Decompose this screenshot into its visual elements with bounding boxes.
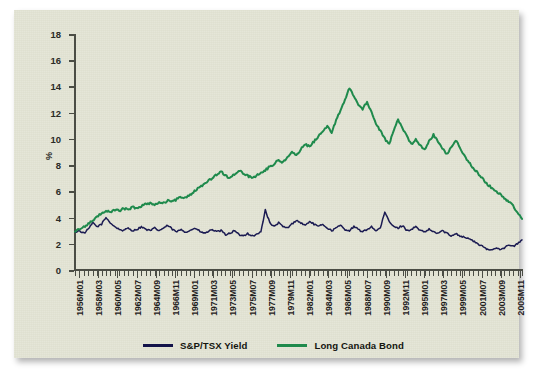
x-axis-major-tick xyxy=(194,271,195,278)
x-axis-minor-tick xyxy=(124,271,125,276)
legend-label: Long Canada Bond xyxy=(314,340,404,351)
x-axis-minor-tick xyxy=(509,271,510,276)
x-axis-minor-tick xyxy=(102,271,103,276)
x-axis-minor-tick xyxy=(221,271,222,276)
x-axis-tick-label: 1982M01 xyxy=(306,280,315,316)
x-axis-minor-tick xyxy=(119,271,120,276)
y-axis-labels: 024681012141618 xyxy=(14,34,70,270)
x-axis-major-tick xyxy=(405,271,406,278)
x-axis-minor-tick xyxy=(234,271,235,276)
x-axis-tick-label: 1997M03 xyxy=(440,280,449,316)
x-axis-major-tick xyxy=(79,271,80,278)
x-axis-minor-tick xyxy=(416,271,417,276)
x-axis-minor-tick xyxy=(265,271,266,276)
x-axis-minor-tick xyxy=(186,271,187,276)
x-axis-minor-tick xyxy=(469,271,470,276)
x-axis-tick-label: 1995M01 xyxy=(421,280,430,316)
series-lines xyxy=(75,34,522,270)
x-axis-minor-tick xyxy=(168,271,169,276)
x-axis-minor-tick xyxy=(438,271,439,276)
x-axis-minor-tick xyxy=(349,271,350,276)
x-axis-major-tick xyxy=(271,271,272,278)
x-axis-minor-tick xyxy=(177,271,178,276)
y-axis-tick xyxy=(69,139,74,141)
y-axis-tick xyxy=(69,34,74,36)
x-axis-minor-tick xyxy=(380,271,381,276)
y-axis-tick-label: 4 xyxy=(56,212,61,223)
x-axis-tick-label: 1960M05 xyxy=(114,280,123,316)
x-axis-minor-tick xyxy=(372,271,373,276)
x-axis-tick-label: 1986M05 xyxy=(344,280,353,316)
x-axis-minor-tick xyxy=(513,271,514,276)
x-axis-minor-tick xyxy=(283,271,284,276)
x-axis-minor-tick xyxy=(164,271,165,276)
x-axis-major-tick xyxy=(501,271,502,278)
x-axis-major-tick xyxy=(309,271,310,278)
x-axis-minor-tick xyxy=(314,271,315,276)
x-axis-tick-label: 1958M03 xyxy=(95,280,104,316)
x-axis-tick-label: 2005M11 xyxy=(517,280,526,315)
x-axis-minor-tick xyxy=(318,271,319,276)
x-axis-minor-tick xyxy=(491,271,492,276)
x-axis-major-tick xyxy=(386,271,387,278)
x-axis-tick-label: 2003M09 xyxy=(498,280,507,316)
x-axis-minor-tick xyxy=(407,271,408,276)
x-axis-major-tick xyxy=(482,271,483,278)
legend-item[interactable]: Long Canada Bond xyxy=(277,340,404,351)
x-axis-minor-tick xyxy=(478,271,479,276)
x-axis-minor-tick xyxy=(363,271,364,276)
x-axis-major-tick xyxy=(213,271,214,278)
x-axis-major-tick xyxy=(137,271,138,278)
x-axis-major-tick xyxy=(232,271,233,278)
x-axis-tick-label: 1969M01 xyxy=(191,280,200,316)
y-axis-tick-label: 18 xyxy=(50,29,61,40)
x-axis-labels: 1956M011958M031960M051962M071964M091966M… xyxy=(75,280,522,336)
x-axis-major-tick xyxy=(520,271,521,278)
x-axis-minor-tick xyxy=(429,271,430,276)
legend-swatch-icon xyxy=(277,344,307,346)
x-axis-major-tick xyxy=(424,271,425,278)
x-axis-minor-tick xyxy=(433,271,434,276)
x-axis-minor-tick xyxy=(487,271,488,276)
x-axis-minor-tick xyxy=(504,271,505,276)
x-axis-major-tick xyxy=(156,271,157,278)
x-axis-minor-tick xyxy=(451,271,452,276)
x-axis-minor-tick xyxy=(287,271,288,276)
x-axis-tick-label: 1971M03 xyxy=(210,280,219,316)
x-axis-tick-label: 1975M07 xyxy=(249,280,258,316)
x-axis-minor-tick xyxy=(292,271,293,276)
y-axis-tick-label: 16 xyxy=(50,55,61,66)
x-axis-minor-tick xyxy=(420,271,421,276)
x-axis-minor-tick xyxy=(411,271,412,276)
x-axis-tick-label: 1973M05 xyxy=(229,280,238,316)
y-axis-tick-label: 10 xyxy=(50,133,61,144)
y-axis-tick xyxy=(69,86,74,88)
legend-item[interactable]: S&P/TSX Yield xyxy=(143,340,247,351)
x-axis-minor-tick xyxy=(106,271,107,276)
chart-legend: S&P/TSX YieldLong Canada Bond xyxy=(14,340,533,351)
chart-card: % 024681012141618 1956M011958M031960M051… xyxy=(14,10,519,358)
x-axis-minor-tick xyxy=(159,271,160,276)
x-axis-tick-label: 1979M11 xyxy=(287,280,296,315)
x-axis-minor-tick xyxy=(518,271,519,276)
x-axis-minor-tick xyxy=(522,271,523,276)
x-axis-minor-tick xyxy=(301,271,302,276)
x-axis-minor-tick xyxy=(150,271,151,276)
series-line xyxy=(75,88,522,231)
plot-area xyxy=(75,34,522,270)
x-axis-minor-tick xyxy=(305,271,306,276)
x-axis-tick-label: 2001M07 xyxy=(479,280,488,316)
x-axis-minor-tick xyxy=(345,271,346,276)
x-axis-major-tick xyxy=(117,271,118,278)
x-axis-minor-tick xyxy=(208,271,209,276)
x-axis-tick-label: 1964M09 xyxy=(153,280,162,316)
x-axis-minor-tick xyxy=(447,271,448,276)
x-axis-tick-label: 1990M09 xyxy=(383,280,392,316)
x-axis-minor-tick xyxy=(146,271,147,276)
x-axis-tick-label: 1966M11 xyxy=(172,280,181,315)
x-axis-major-tick xyxy=(443,271,444,278)
x-axis-minor-tick xyxy=(398,271,399,276)
x-axis-minor-tick xyxy=(141,271,142,276)
y-axis-tick xyxy=(69,113,74,115)
legend-swatch-icon xyxy=(143,344,173,346)
